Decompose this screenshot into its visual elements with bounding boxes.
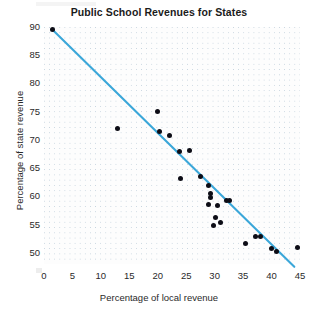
trend-line: [53, 30, 295, 267]
data-point: [295, 245, 300, 250]
scatter-chart: Public School Revenues for States 505560…: [0, 0, 318, 326]
data-point: [157, 129, 162, 134]
data-point: [198, 174, 203, 179]
x-tick-label: 20: [145, 270, 171, 281]
x-tick-label: 40: [259, 270, 285, 281]
y-tick-label: 85: [4, 49, 40, 60]
y-axis-label: Percentage of state revenue: [14, 66, 25, 236]
x-axis-label: Percentage of local revenue: [0, 292, 318, 303]
x-tick-label: 15: [116, 270, 142, 281]
x-tick-label: 30: [202, 270, 228, 281]
y-tick-label: 50: [4, 247, 40, 258]
x-tick-label: 25: [173, 270, 199, 281]
x-tick-label: 35: [230, 270, 256, 281]
data-point: [274, 249, 279, 254]
data-point: [177, 149, 182, 154]
x-tick-label: 45: [287, 270, 313, 281]
data-point: [218, 220, 223, 225]
y-tick-label: 90: [4, 21, 40, 32]
x-axis-ticks: 051015202530354045: [0, 270, 318, 286]
scan-artifact-left: [36, 268, 42, 273]
data-point: [187, 148, 192, 153]
x-tick-label: 10: [88, 270, 114, 281]
x-tick-label: 0: [31, 270, 57, 281]
x-tick-label: 5: [59, 270, 85, 281]
data-point: [178, 176, 183, 181]
data-point: [167, 133, 172, 138]
data-point: [215, 203, 220, 208]
